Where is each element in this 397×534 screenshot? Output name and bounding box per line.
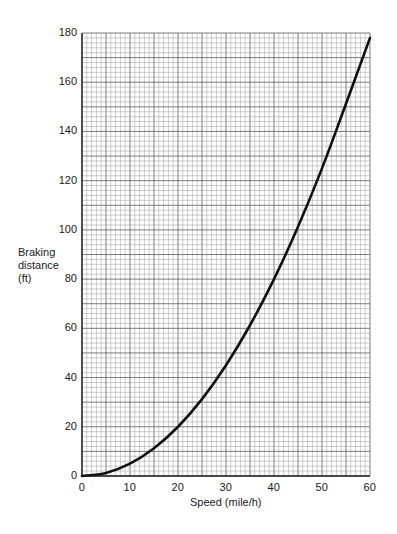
y-tick-label: 20 <box>65 420 77 432</box>
y-axis-label-line-1: Braking <box>18 246 59 259</box>
x-tick-label: 10 <box>124 481 136 493</box>
y-tick-label: 40 <box>65 371 77 383</box>
y-tick-label: 120 <box>59 174 77 186</box>
y-axis-label-line-2: distance <box>18 259 59 272</box>
y-tick-label: 160 <box>59 75 77 87</box>
y-tick-label: 60 <box>65 321 77 333</box>
x-tick-label: 20 <box>172 481 184 493</box>
y-axis-label-line-3: (ft) <box>18 272 59 285</box>
y-tick-label: 100 <box>59 223 77 235</box>
x-tick-label: 40 <box>268 481 280 493</box>
x-tick-label: 30 <box>220 481 232 493</box>
y-tick-label: 0 <box>71 469 77 481</box>
y-tick-label: 80 <box>65 272 77 284</box>
y-axis-label: Braking distance (ft) <box>18 246 59 285</box>
y-tick-label: 180 <box>59 26 77 38</box>
x-tick-label: 60 <box>364 481 376 493</box>
x-axis-label-text: Speed (mile/h) <box>190 496 262 508</box>
grid-lines <box>82 33 370 476</box>
y-tick-label: 140 <box>59 124 77 136</box>
x-tick-label: 50 <box>316 481 328 493</box>
x-tick-label: 0 <box>79 481 85 493</box>
